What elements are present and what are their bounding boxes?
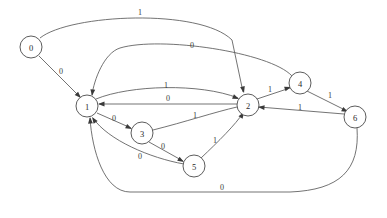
arrowhead-6-to-1	[88, 117, 93, 124]
arrowhead-0-to-2	[240, 86, 246, 93]
edge-label-6-to-1: 0	[220, 183, 224, 192]
edge-4-to-6	[307, 91, 347, 111]
nodes-layer: 0123456	[20, 36, 366, 177]
edge-label-2-to-4: 1	[268, 85, 272, 94]
node-6[interactable]: 6	[344, 106, 366, 128]
edge-0-to-2	[40, 18, 243, 92]
edge-label-3-to-5: 0	[161, 142, 165, 151]
edge-label-2-to-1: 0	[166, 94, 170, 103]
node-label-3: 3	[140, 129, 144, 139]
state-machine-diagram: 10010010011110 0123456	[0, 0, 387, 218]
edge-label-1-to-2: 1	[164, 81, 168, 90]
node-label-6: 6	[353, 113, 357, 123]
node-3[interactable]: 3	[131, 122, 153, 144]
edge-3-to-5	[149, 142, 183, 161]
graph-canvas: 10010010011110 0123456	[0, 0, 387, 218]
node-5[interactable]: 5	[183, 155, 205, 177]
edge-label-4-to-6: 1	[328, 91, 332, 100]
edge-4-to-1	[92, 44, 292, 95]
arrowheads-layer	[75, 85, 349, 164]
node-1[interactable]: 1	[76, 95, 98, 117]
edge-label-5-to-1: 0	[138, 152, 142, 161]
node-2[interactable]: 2	[237, 94, 259, 116]
node-label-2: 2	[246, 101, 250, 111]
edge-6-to-1	[90, 118, 357, 192]
edge-label-1-to-3: 0	[112, 114, 116, 123]
node-4[interactable]: 4	[289, 72, 311, 94]
edge-5-to-2	[201, 113, 243, 158]
edge-0-to-1	[39, 56, 80, 97]
edge-label-4-to-1: 0	[190, 41, 194, 50]
node-0[interactable]: 0	[20, 36, 42, 58]
arrowhead-2-to-1	[98, 102, 105, 107]
edge-label-3-to-2: 1	[193, 111, 197, 120]
node-label-0: 0	[29, 43, 33, 53]
edge-label-0-to-2: 1	[138, 8, 142, 17]
edge-label-0-to-1: 0	[59, 67, 63, 76]
node-label-1: 1	[85, 102, 89, 112]
edge-label-5-to-2: 1	[213, 136, 217, 145]
node-label-5: 5	[192, 162, 196, 172]
edge-label-6-to-2: 1	[298, 103, 302, 112]
